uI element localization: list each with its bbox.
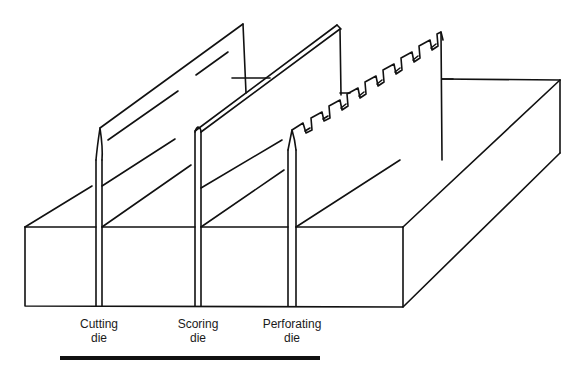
label-perforating-die: Perforating die	[242, 317, 342, 345]
cutting-die	[96, 24, 246, 306]
label-cutting-die-line2: die	[49, 331, 149, 345]
caption-rule	[60, 356, 320, 360]
label-scoring-die-line2: die	[148, 331, 248, 345]
die-block-diagram	[0, 0, 582, 365]
label-perforating-die-line1: Perforating	[242, 317, 342, 331]
label-cutting-die: Cutting die	[49, 317, 149, 345]
label-scoring-die-line1: Scoring	[148, 317, 248, 331]
perforating-die	[288, 32, 453, 306]
label-cutting-die-line1: Cutting	[49, 317, 149, 331]
scoring-die	[195, 25, 341, 306]
label-perforating-die-line2: die	[242, 331, 342, 345]
base-block	[25, 78, 560, 307]
label-scoring-die: Scoring die	[148, 317, 248, 345]
